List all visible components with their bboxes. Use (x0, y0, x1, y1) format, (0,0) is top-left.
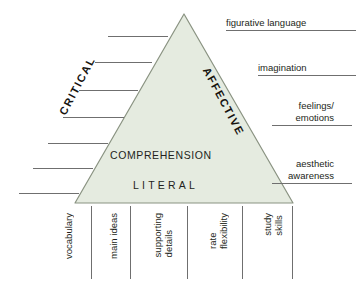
right-label-figurative-language: figurative language (226, 17, 306, 29)
comprehension-triangle (75, 14, 293, 203)
right-label-aesthetic-awareness: aesthetic awareness (272, 158, 334, 181)
right-label-feelings-emotions: feelings/ emotions (272, 100, 334, 123)
bottom-label-main-ideas: main ideas (108, 213, 119, 259)
bottom-label-supporting-details: supporting details (152, 213, 174, 257)
diagram-canvas: CRITICAL AFFECTIVE COMPREHENSION LITERAL… (0, 0, 363, 283)
bottom-label-rate-flexibility: rate flexibility (207, 213, 229, 249)
triangle-center-label-comprehension: COMPREHENSION (110, 149, 212, 161)
bottom-label-study-skills: study skills (262, 213, 284, 236)
bottom-label-vocabulary: vocabulary (63, 213, 74, 259)
right-label-imagination: imagination (258, 62, 307, 74)
diagram-vector-layer (0, 0, 363, 283)
triangle-base-label-literal: LITERAL (133, 179, 198, 191)
